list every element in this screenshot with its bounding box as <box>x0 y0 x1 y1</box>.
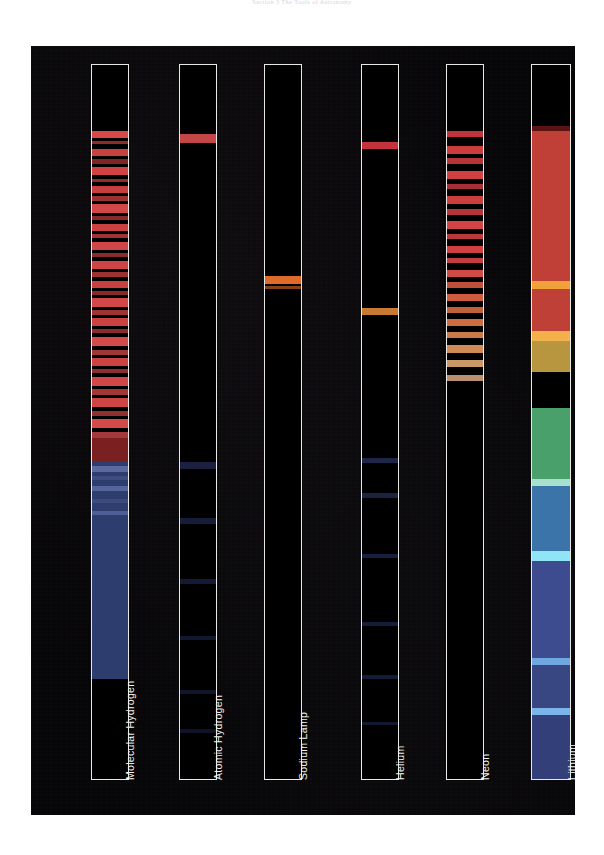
spectra-plate: Molecular HydrogenAtomic HydrogenSodium … <box>31 46 575 815</box>
emission-line <box>92 167 128 175</box>
emission-line <box>447 196 483 203</box>
emission-line <box>180 462 216 469</box>
emission-line <box>362 722 398 726</box>
emission-line <box>362 458 398 463</box>
emission-line <box>92 272 128 277</box>
spectrum-column-2: Atomic Hydrogen <box>179 64 217 780</box>
continuum-band <box>532 561 570 658</box>
spectrum-column-6: Lithium <box>531 64 571 780</box>
emission-line <box>447 332 483 338</box>
emission-line <box>447 270 483 277</box>
emission-line <box>92 377 128 386</box>
emission-line <box>92 337 128 346</box>
spectrum-label-neon: Neon <box>479 754 491 780</box>
emission-line <box>447 221 483 229</box>
emission-line <box>92 499 128 503</box>
emission-line <box>92 186 128 193</box>
emission-line <box>92 329 128 333</box>
continuum-band <box>532 281 570 289</box>
continuum-band <box>532 289 570 331</box>
emission-line <box>92 234 128 239</box>
emission-line <box>92 261 128 270</box>
spectrum-strip <box>264 64 302 780</box>
emission-line <box>447 234 483 240</box>
spectrum-inner <box>447 65 483 779</box>
emission-line <box>92 466 128 472</box>
emission-line <box>180 134 216 143</box>
emission-line <box>92 281 128 288</box>
emission-line <box>180 579 216 584</box>
emission-line <box>362 675 398 679</box>
emission-line <box>92 149 128 156</box>
emission-line <box>92 432 128 438</box>
spectrum-strip <box>179 64 217 780</box>
emission-line <box>447 146 483 153</box>
emission-line <box>92 411 128 416</box>
continuum-band <box>532 341 570 372</box>
spectrum-column-1: Molecular Hydrogen <box>91 64 129 780</box>
emission-line <box>447 209 483 215</box>
emission-line <box>180 636 216 640</box>
spectrum-strip <box>446 64 484 780</box>
emission-line <box>92 318 128 326</box>
spectrum-strip <box>531 64 571 780</box>
emission-line <box>447 360 483 367</box>
emission-line <box>92 291 128 295</box>
spectrum-inner <box>92 65 128 779</box>
emission-line <box>92 511 128 515</box>
emission-line <box>362 308 398 315</box>
continuum-band <box>532 551 570 561</box>
spectrum-inner <box>362 65 398 779</box>
spectrum-strip <box>361 64 399 780</box>
spectrum-label-molecular-hydrogen: Molecular Hydrogen <box>124 681 136 780</box>
emission-line <box>92 179 128 183</box>
emission-line <box>92 419 128 428</box>
emission-line <box>265 276 301 284</box>
continuum-band <box>532 65 570 126</box>
emission-line <box>447 131 483 137</box>
continuum-band <box>532 658 570 665</box>
emission-line <box>362 142 398 149</box>
emission-line <box>92 486 128 491</box>
emission-line <box>180 729 216 733</box>
continuum-band <box>92 679 128 750</box>
emission-line <box>92 476 128 480</box>
emission-line <box>92 196 128 201</box>
emission-line <box>447 345 483 353</box>
spectrum-inner <box>180 65 216 779</box>
continuum-band <box>532 408 570 479</box>
spectrum-label-atomic-hydrogen: Atomic Hydrogen <box>212 695 224 780</box>
emission-line <box>92 389 128 395</box>
spectrum-label-sodium-lamp: Sodium Lamp <box>297 712 309 780</box>
emission-line <box>447 158 483 164</box>
running-header: Section 3 The Tools of Astronomy <box>0 0 604 5</box>
continuum-band <box>92 436 128 461</box>
emission-line <box>92 204 128 213</box>
continuum-band <box>532 708 570 715</box>
emission-line <box>447 171 483 179</box>
emission-line <box>362 622 398 626</box>
spectrum-column-3: Sodium Lamp <box>264 64 302 780</box>
continuum-band <box>532 331 570 340</box>
continuum-band <box>532 665 570 708</box>
emission-line <box>180 690 216 694</box>
continuum-band <box>532 479 570 486</box>
continuum-band <box>532 715 570 779</box>
emission-line <box>447 294 483 301</box>
emission-line <box>447 282 483 288</box>
emission-line <box>92 398 128 407</box>
emission-line <box>92 310 128 315</box>
continuum-band <box>92 461 128 679</box>
emission-line <box>447 246 483 253</box>
spectrum-strip <box>91 64 129 780</box>
spectrum-column-4: Helium <box>361 64 399 780</box>
emission-line <box>447 258 483 264</box>
emission-line <box>92 350 128 355</box>
continuum-band <box>532 372 570 408</box>
spectrum-label-helium: Helium <box>394 746 406 780</box>
emission-line <box>92 159 128 163</box>
emission-line <box>362 493 398 497</box>
emission-line <box>180 518 216 524</box>
spectrum-inner <box>532 65 570 779</box>
emission-line <box>92 216 128 220</box>
